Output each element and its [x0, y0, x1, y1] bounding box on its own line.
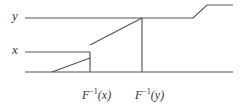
cdf-lower-ramp [52, 58, 90, 72]
y-level-line [25, 5, 233, 18]
y-label: y [12, 9, 18, 22]
finv-x-label: F−1(x) [82, 88, 111, 101]
finv-y-label: F−1(y) [135, 88, 164, 101]
diagram-canvas [0, 0, 250, 106]
cdf-upper-ramp [90, 18, 142, 45]
x-label: x [12, 43, 18, 56]
